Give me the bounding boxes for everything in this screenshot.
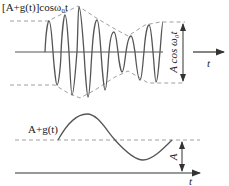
bottom-signal-label: A+g(t) xyxy=(28,123,58,136)
lower-envelope xyxy=(10,71,185,98)
top-signal-label: [A+g(t)]cosω₀t xyxy=(2,1,68,14)
baseband-wave xyxy=(58,114,172,160)
offset-label: A xyxy=(167,153,179,161)
top-panel: A cos ω₀t t [A+g(t)]cosω₀t xyxy=(2,1,224,98)
envelope-label: A cos ω₀t xyxy=(167,30,179,73)
bottom-panel: A t A+g(t) xyxy=(15,114,200,186)
top-t-label: t xyxy=(207,57,211,69)
bottom-t-label: t xyxy=(189,175,193,186)
am-modulation-diagram: A cos ω₀t t [A+g(t)]cosω₀t A t A+g(t) xyxy=(0,0,229,186)
